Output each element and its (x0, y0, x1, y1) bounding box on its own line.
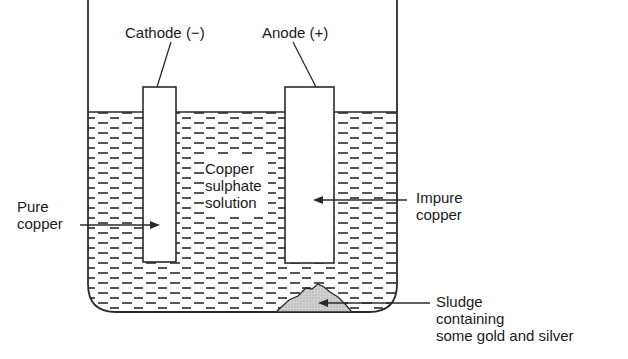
anode-plate (285, 87, 334, 263)
solution-label: Copper sulphate solution (205, 160, 262, 211)
pure-copper-label: Pure copper (17, 198, 63, 232)
cathode-wire (157, 42, 171, 87)
cathode-plate (143, 87, 176, 262)
impure-copper-label: Impure copper (416, 189, 463, 223)
sludge-label: Sludge containing some gold and silver (436, 293, 574, 344)
anode-wire (293, 42, 316, 87)
cathode-label: Cathode (−) (125, 24, 205, 41)
anode-label: Anode (+) (262, 24, 328, 41)
